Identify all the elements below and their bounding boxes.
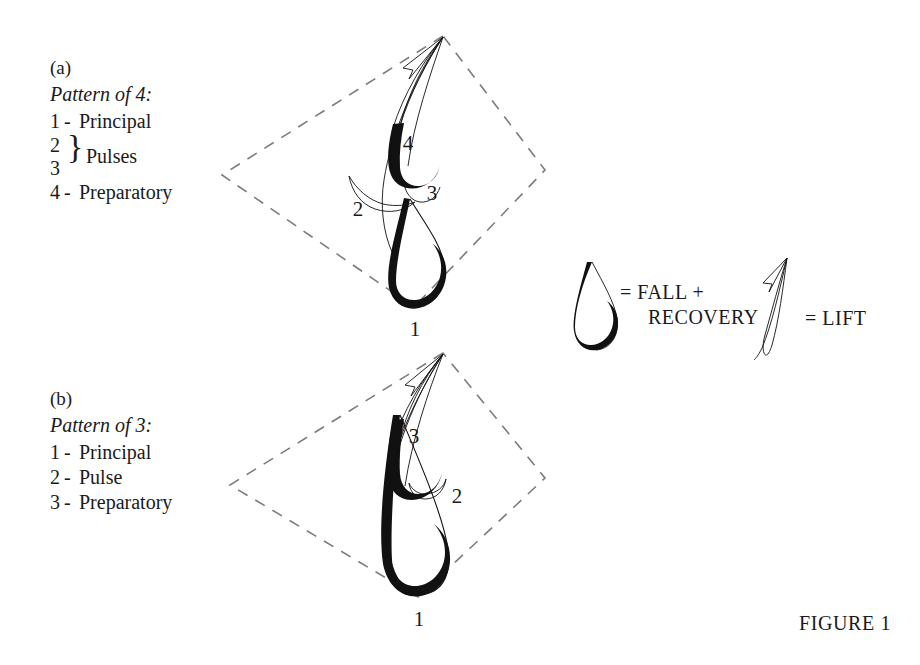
panel-a-letter: (a) bbox=[50, 57, 71, 79]
fall-recovery-hook-tail-icon bbox=[592, 262, 617, 350]
panel-b-title: Pattern of 3: bbox=[50, 414, 152, 438]
lift-arrowhead-icon bbox=[763, 258, 787, 292]
legend-fall-line-2: RECOVERY bbox=[648, 306, 759, 330]
panel-a-line-4-num: 4 bbox=[50, 181, 60, 205]
diagram-b-label-2: 2 bbox=[448, 484, 466, 509]
panel-b-line-3-num: 3 bbox=[50, 491, 60, 515]
gesture-strokes-a bbox=[349, 37, 446, 309]
panel-a-title: Pattern of 4: bbox=[50, 83, 152, 107]
panel-a-line-2-num: 2 bbox=[50, 134, 60, 158]
diagram-a-label-1: 1 bbox=[406, 317, 424, 342]
stroke-2-pulse-b bbox=[409, 479, 446, 499]
stroke-1-principal-a bbox=[388, 198, 446, 309]
panel-a-line-4-sep: - bbox=[64, 181, 71, 205]
panel-b-line-2-text: Pulse bbox=[79, 466, 122, 490]
travel-line-b bbox=[386, 354, 443, 590]
lift-arrowhead-b bbox=[405, 354, 443, 396]
diagram-a-label-4: 4 bbox=[399, 131, 417, 156]
diagram-a-label-2: 2 bbox=[349, 197, 367, 222]
stroke-2-pulse-inner-b bbox=[409, 479, 446, 494]
fall-recovery-hook-icon bbox=[574, 262, 618, 350]
lift-sliver-icon bbox=[763, 258, 787, 355]
panel-b-line-2-num: 2 bbox=[50, 466, 60, 490]
travel-line-2-b bbox=[405, 354, 443, 486]
panel-b-line-3-text: Preparatory bbox=[79, 491, 172, 515]
stroke-1-recovery-line-a bbox=[410, 199, 444, 305]
panel-a-line-3-num: 3 bbox=[50, 157, 60, 181]
panel-b-line-3-sep: - bbox=[64, 491, 71, 515]
figure-page: (a) Pattern of 4: 1 - Principal 2 3 } Pu… bbox=[0, 0, 920, 665]
diamond-guide-b bbox=[230, 353, 545, 597]
figure-caption: FIGURE 1 bbox=[799, 612, 891, 636]
panel-b-line-2-sep: - bbox=[64, 466, 71, 490]
legend-fall-line-1: = FALL + bbox=[620, 281, 704, 305]
panel-b-letter: (b) bbox=[50, 388, 72, 410]
lift-arrowhead-a bbox=[403, 37, 443, 79]
panel-a-pulses-brace: } bbox=[67, 130, 83, 164]
panel-a-line-4-text: Preparatory bbox=[79, 181, 172, 205]
lift-sliver-outer-icon bbox=[754, 258, 787, 360]
panel-a-line-1-text: Principal bbox=[79, 110, 151, 134]
panel-a-pulses-label: Pulses bbox=[86, 145, 137, 169]
legend-lift-label: = LIFT bbox=[805, 307, 867, 331]
lift-sliver-a bbox=[400, 37, 443, 126]
diamond-guide-a bbox=[222, 36, 545, 307]
lift-sliver-outer-a bbox=[393, 37, 443, 128]
panel-a-line-1-num: 1 bbox=[50, 110, 60, 134]
diagram-b-label-3: 3 bbox=[405, 424, 423, 449]
panel-b-line-1-num: 1 bbox=[50, 441, 60, 465]
panel-b-line-1-text: Principal bbox=[79, 441, 151, 465]
diagram-a-label-3: 3 bbox=[423, 181, 441, 206]
gesture-strokes-b bbox=[381, 354, 450, 596]
panel-b-line-1-sep: - bbox=[64, 441, 71, 465]
diagram-b-label-1: 1 bbox=[410, 607, 428, 632]
